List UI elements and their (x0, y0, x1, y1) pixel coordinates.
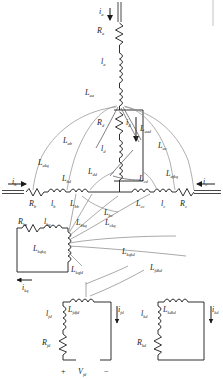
arc-Lab (67, 106, 117, 190)
label-Rfd: Rfd (41, 338, 51, 348)
resistor-Rc (176, 189, 194, 197)
inductor-Lkdkd (164, 299, 188, 302)
label-Rd: Rd (96, 118, 105, 128)
label-ifd: ifd (118, 305, 124, 315)
label-Lcc: Lcc (135, 199, 144, 209)
phase-a-branch (110, 2, 123, 110)
leader-Lab-label (96, 107, 118, 148)
leader-Lkqfd (68, 252, 82, 266)
leader-fd-right (86, 266, 128, 284)
label-lkq: lkq (44, 217, 51, 227)
label-plus: + (61, 367, 66, 376)
label-Lkqkq: Lkqkq (32, 244, 47, 254)
label-Lbb: Lbb (69, 199, 80, 209)
phase-bc-bus (2, 184, 221, 196)
leader-kq-2 (69, 236, 176, 243)
label-Lkdkd: Lkdkd (162, 305, 177, 315)
inductor-ld (120, 140, 123, 158)
resistor-Rb (26, 189, 44, 197)
label-ikq: ikq (22, 283, 29, 293)
inductor-Lfdfd (70, 299, 94, 302)
label-lc: lc (161, 199, 165, 209)
leader-Lcd-in (110, 150, 133, 176)
leader-fdkd (90, 270, 144, 296)
mutual-coupling-arcs (33, 106, 194, 212)
label-lfd: lfd (46, 309, 52, 319)
resistor-Rkd (154, 334, 162, 355)
label-ld: ld (101, 144, 106, 154)
label-lb: lb (51, 199, 56, 209)
label-ib: ib (12, 177, 17, 187)
leader-Ldd-in (113, 176, 140, 180)
label-Rc: Rc (179, 199, 187, 209)
label-Laad: Laad (139, 124, 152, 134)
label-Lab: Lab (62, 136, 73, 146)
label-Ldd: Ldd (87, 167, 98, 177)
inductor-Laa (120, 88, 123, 106)
resistor-Rfd (59, 334, 67, 355)
arc-Lbc (82, 196, 118, 212)
label-Lkqkd: Lkqkd (121, 247, 136, 257)
label-Lac: Lac (157, 141, 167, 151)
inductor-Lbb (70, 189, 88, 192)
label-Lfdkd: Lfdkd (149, 263, 163, 273)
synchronous-machine-circuit-figure: ia Ra la Laa Rd id Laad ld Ldd Lab Lakq … (0, 0, 223, 379)
inductor-lb (48, 189, 66, 192)
label-Rkq: Rkq (17, 217, 28, 227)
label-ikd: ikd (212, 305, 219, 315)
label-Lbkq: Lbkq (75, 218, 88, 228)
fd-leaders (86, 266, 144, 297)
label-Lcd: Lcd (138, 174, 148, 184)
label-Lbc: Lbc (103, 208, 113, 218)
circuit-diagram-canvas: ia Ra la Laa Rd id Laad ld Ldd Lab Lakq … (0, 0, 223, 379)
label-Lckq: Lckq (104, 218, 116, 228)
inductor-la (120, 53, 123, 83)
inductor-lkd (158, 306, 161, 330)
inductor-lfd (63, 306, 66, 330)
label-Lakq: Lakq (37, 158, 50, 168)
inductor-Lkqkq (68, 232, 71, 262)
label-Vfd: Vfd (78, 367, 87, 377)
label-minus: − (104, 367, 109, 376)
label-Lkqfd: Lkqfd (70, 265, 84, 275)
label-Rb: Rb (28, 199, 37, 209)
label-Rkd: Rkd (136, 338, 147, 348)
label-Lfdfd: Lfdfd (67, 305, 80, 315)
inductor-Lcc (132, 189, 150, 192)
label-ia: ia (99, 7, 104, 17)
label-ic: ic (203, 177, 207, 187)
resistor-Ra (116, 23, 124, 45)
label-lkd: lkd (141, 309, 148, 319)
label-Laa: Laa (84, 88, 95, 98)
resistor-Rd (116, 112, 124, 134)
label-la: la (101, 57, 106, 67)
label-Ra: Ra (96, 26, 105, 36)
